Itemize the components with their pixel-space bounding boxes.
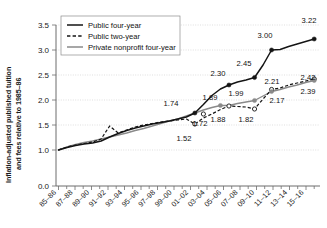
data-point-marker <box>252 75 256 79</box>
data-label-2-30: 2.30 <box>211 69 226 78</box>
data-label-1-89: 1.89 <box>203 93 218 102</box>
data-point-marker <box>312 37 316 41</box>
data-label-1-72: 1.72 <box>193 119 208 128</box>
data-label-2-21: 2.21 <box>265 77 280 86</box>
ytick-label-1-5: 1.5 <box>38 121 50 130</box>
data-label-2-17: 2.17 <box>270 96 285 105</box>
data-label-1-99: 1.99 <box>229 89 244 98</box>
legend-label-public-four-year: Public four-year <box>88 21 142 30</box>
ytick-label-3-0: 3.0 <box>38 46 50 55</box>
data-label-1-82: 1.82 <box>239 115 254 124</box>
data-label-2-45: 2.45 <box>237 59 252 68</box>
ytick-label-2-0: 2.0 <box>38 96 50 105</box>
data-label-1-74: 1.74 <box>164 99 179 108</box>
y-axis-label: Inflation-adjusted published tuition and… <box>4 67 23 183</box>
tuition-trend-line-chart: Inflation-adjusted published tuition and… <box>0 0 327 228</box>
data-label-3-22: 3.22 <box>302 16 317 25</box>
data-point-marker <box>252 107 256 111</box>
legend-label-private-nonprofit: Private nonprofit four-year <box>88 43 176 52</box>
data-point-marker <box>227 83 231 87</box>
chart-container: Inflation-adjusted published tuition and… <box>0 0 327 228</box>
data-point-marker <box>227 104 231 108</box>
ytick-label-0-0: 0.0 <box>38 182 50 191</box>
y-axis-label-line1: Inflation-adjusted published tuition <box>4 67 13 183</box>
data-point-marker <box>252 98 256 102</box>
ytick-label-2-5: 2.5 <box>38 71 50 80</box>
data-point-marker <box>201 112 205 116</box>
data-label-2-42: 2.42 <box>301 73 316 82</box>
data-label-1-88: 1.88 <box>211 115 226 124</box>
y-axis-label-line2: and fees relative to 1985–86 <box>14 78 23 170</box>
legend: Public four-year Public two-year Private… <box>61 16 180 55</box>
data-label-3-00: 3.00 <box>258 31 273 40</box>
data-point-marker <box>218 103 222 107</box>
ytick-label-1-0: 1.0 <box>38 146 50 155</box>
data-point-marker <box>269 89 273 93</box>
data-point-marker <box>193 111 197 115</box>
data-label-2-39: 2.39 <box>301 87 316 96</box>
data-label-1-52: 1.52 <box>177 134 192 143</box>
data-point-marker <box>269 48 273 52</box>
ytick-label-3-5: 3.5 <box>38 21 50 30</box>
legend-label-public-two-year: Public two-year <box>88 32 140 41</box>
